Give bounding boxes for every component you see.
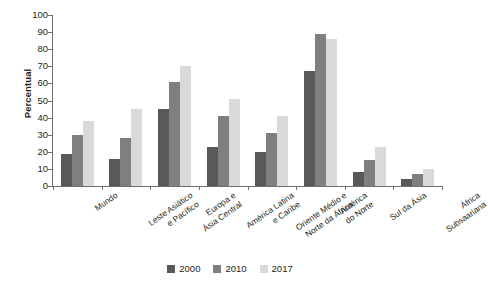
y-axis-tick-label: 80 xyxy=(37,44,48,54)
y-axis-tick-label: 20 xyxy=(37,147,48,157)
legend-swatch-icon xyxy=(260,265,268,273)
bar-2010 xyxy=(120,138,131,186)
y-axis-tick-mark xyxy=(48,186,52,187)
x-axis-category-label: Europa eÁsia Central xyxy=(194,190,244,234)
x-axis-category-label: ÁfricaSubsaariana xyxy=(437,190,488,235)
y-axis-tick-label: 70 xyxy=(37,62,48,72)
bar-2010 xyxy=(412,174,423,186)
chart-legend: 200020102017 xyxy=(0,264,460,274)
legend-label: 2017 xyxy=(272,264,293,274)
bar-group xyxy=(248,15,297,186)
x-axis-category-label: Mundo xyxy=(93,190,120,214)
clipped-header-text xyxy=(0,0,460,7)
bar-2000 xyxy=(207,147,218,186)
y-axis-tick-label: 40 xyxy=(37,113,48,123)
bar-2017 xyxy=(277,116,288,186)
bar-2010 xyxy=(364,160,375,186)
bar-2000 xyxy=(255,152,266,186)
legend-swatch-icon xyxy=(213,265,221,273)
bar-2017 xyxy=(326,39,337,186)
y-axis-tick-label: 10 xyxy=(37,164,48,174)
y-axis-title: Percentual xyxy=(22,39,33,149)
bar-2017 xyxy=(423,169,434,186)
bar-group xyxy=(102,15,151,186)
bar-group xyxy=(150,15,199,186)
y-axis-tick-mark xyxy=(48,152,52,153)
y-axis-tick-mark xyxy=(48,15,52,16)
bar-2000 xyxy=(353,172,364,186)
x-axis-category-label: América Latinae Caribe xyxy=(244,190,302,240)
legend-item-2000[interactable]: 2000 xyxy=(167,264,200,274)
x-axis-category-labels: MundoLeste Asiáticoe PacíficoEuropa eÁsi… xyxy=(52,190,442,258)
y-axis-tick-label: 50 xyxy=(37,96,48,106)
y-axis-tick-label: 30 xyxy=(37,130,48,140)
legend-swatch-icon xyxy=(167,265,175,273)
x-axis-category-label: Leste Asiáticoe Pacífico xyxy=(146,190,201,238)
bar-2010 xyxy=(169,82,180,186)
legend-item-2010[interactable]: 2010 xyxy=(213,264,246,274)
y-axis-tick-mark xyxy=(48,101,52,102)
y-axis-tick-mark xyxy=(48,66,52,67)
bar-2017 xyxy=(180,66,191,186)
legend-label: 2010 xyxy=(225,264,246,274)
y-axis-tick-label: 60 xyxy=(37,79,48,89)
y-axis-tick-mark xyxy=(48,118,52,119)
y-axis-tick-mark xyxy=(48,49,52,50)
bar-2017 xyxy=(131,109,142,186)
y-axis-tick-mark xyxy=(48,83,52,84)
bar-group xyxy=(345,15,394,186)
bar-groups xyxy=(53,15,442,186)
bar-2017 xyxy=(229,99,240,186)
bar-2000 xyxy=(109,159,120,186)
bar-2000 xyxy=(304,71,315,186)
bar-2000 xyxy=(158,109,169,186)
bar-2017 xyxy=(83,121,94,186)
bar-group xyxy=(296,15,345,186)
y-axis-tick-label: 90 xyxy=(37,27,48,37)
bar-2010 xyxy=(72,135,83,186)
legend-label: 2000 xyxy=(179,264,200,274)
bar-2010 xyxy=(315,34,326,186)
y-axis-tick-mark xyxy=(48,169,52,170)
x-axis-tick-mark xyxy=(442,186,443,190)
x-axis-category-label: Sul da Ásia xyxy=(388,190,429,223)
bar-group xyxy=(199,15,248,186)
bar-2010 xyxy=(266,133,277,186)
y-axis-tick-label: 100 xyxy=(32,10,48,20)
legend-item-2017[interactable]: 2017 xyxy=(260,264,293,274)
bar-2010 xyxy=(218,116,229,186)
y-axis-tick-mark xyxy=(48,135,52,136)
bar-2017 xyxy=(375,147,386,186)
bar-group xyxy=(53,15,102,186)
bar-group xyxy=(393,15,442,186)
y-axis-tick-mark xyxy=(48,32,52,33)
bar-2000 xyxy=(61,154,72,186)
bar-2000 xyxy=(401,179,412,186)
plot-area: 1009080706050403020100 xyxy=(52,15,442,186)
